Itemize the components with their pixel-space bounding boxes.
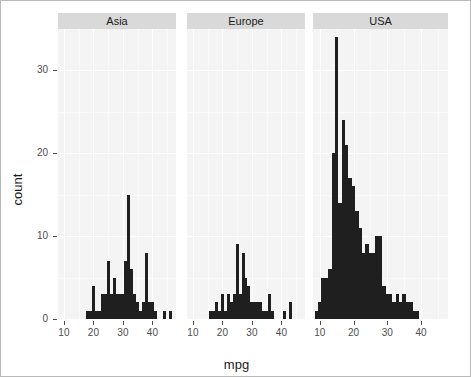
grid-line-vertical-minor — [296, 29, 297, 319]
x-tick-mark-10 — [193, 321, 194, 325]
grid-line-vertical — [320, 29, 321, 319]
grid-line-vertical-minor — [438, 29, 439, 319]
x-tick-label-20: 20 — [81, 327, 105, 338]
grid-line-vertical — [222, 29, 223, 319]
grid-line-horizontal — [58, 153, 176, 154]
x-tick-label-30: 30 — [375, 327, 399, 338]
grid-line-vertical — [421, 29, 422, 319]
y-tick-mark-0 — [53, 319, 57, 320]
x-axis-title-text: mpg — [224, 357, 249, 372]
x-tick-mark-20 — [222, 321, 223, 325]
histogram-bar — [163, 311, 166, 319]
panel-usa — [313, 29, 448, 319]
grid-line-horizontal — [187, 236, 305, 237]
grid-line-horizontal — [187, 153, 305, 154]
grid-line-horizontal — [58, 236, 176, 237]
grid-line-vertical-minor — [267, 29, 268, 319]
x-tick-mark-30 — [252, 321, 253, 325]
x-tick-mark-20 — [354, 321, 355, 325]
x-tick-mark-10 — [320, 321, 321, 325]
histogram-bar — [154, 311, 157, 319]
grid-line-horizontal-minor — [187, 112, 305, 113]
x-tick-label-10: 10 — [52, 327, 76, 338]
grid-line-vertical-minor — [79, 29, 80, 319]
x-tick-label-20: 20 — [210, 327, 234, 338]
x-tick-mark-40 — [281, 321, 282, 325]
panel-europe — [187, 29, 305, 319]
y-tick-label-20: 20 — [37, 147, 48, 159]
grid-line-vertical-minor — [167, 29, 168, 319]
grid-line-horizontal — [313, 70, 448, 71]
grid-line-vertical — [152, 29, 153, 319]
facet-strip-label: Asia — [106, 15, 127, 27]
grid-line-vertical — [193, 29, 194, 319]
x-tick-label-40: 40 — [409, 327, 433, 338]
x-tick-label-40: 40 — [269, 327, 293, 338]
grid-line-horizontal-minor — [58, 112, 176, 113]
x-tick-mark-20 — [93, 321, 94, 325]
grid-line-vertical-minor — [404, 29, 405, 319]
x-tick-label-10: 10 — [181, 327, 205, 338]
grid-line-horizontal — [187, 70, 305, 71]
x-tick-mark-40 — [152, 321, 153, 325]
grid-line-vertical — [387, 29, 388, 319]
x-axis-title: mpg — [1, 357, 471, 372]
y-tick-label-30: 30 — [37, 64, 48, 76]
panel-asia — [58, 29, 176, 319]
x-tick-label-10: 10 — [308, 327, 332, 338]
facet-strip-label: Europe — [228, 15, 263, 27]
histogram-bar — [283, 311, 286, 319]
grid-line-vertical — [93, 29, 94, 319]
x-tick-mark-30 — [387, 321, 388, 325]
y-axis-title: count — [7, 1, 29, 377]
x-tick-mark-40 — [421, 321, 422, 325]
y-tick-mark-30 — [53, 70, 57, 71]
histogram-bar — [271, 311, 274, 319]
facet-strip-europe: Europe — [187, 13, 305, 29]
grid-line-horizontal-minor — [58, 278, 176, 279]
grid-line-vertical — [252, 29, 253, 319]
x-tick-label-40: 40 — [140, 327, 164, 338]
histogram-bar — [289, 302, 292, 319]
grid-line-horizontal-minor — [58, 195, 176, 196]
histogram-bar — [169, 311, 172, 319]
facet-strip-asia: Asia — [58, 13, 176, 29]
y-tick-mark-20 — [53, 153, 57, 154]
grid-line-vertical-minor — [138, 29, 139, 319]
y-tick-label-0: 0 — [42, 313, 48, 325]
x-tick-label-30: 30 — [111, 327, 135, 338]
x-tick-label-30: 30 — [240, 327, 264, 338]
grid-line-horizontal-minor — [313, 112, 448, 113]
grid-line-vertical — [281, 29, 282, 319]
y-tick-mark-10 — [53, 236, 57, 237]
y-tick-label-10: 10 — [37, 230, 48, 242]
facet-strip-usa: USA — [313, 13, 448, 29]
facet-strip-label: USA — [369, 15, 392, 27]
grid-line-vertical — [64, 29, 65, 319]
x-tick-mark-10 — [64, 321, 65, 325]
grid-line-horizontal — [58, 70, 176, 71]
x-tick-label-20: 20 — [342, 327, 366, 338]
y-axis-title-text: count — [11, 174, 26, 206]
histogram-bar — [416, 311, 419, 319]
chart-figure: count 0102030 Asia10203040Europe10203040… — [0, 0, 471, 377]
grid-line-horizontal-minor — [187, 195, 305, 196]
grid-line-vertical-minor — [208, 29, 209, 319]
x-tick-mark-30 — [123, 321, 124, 325]
